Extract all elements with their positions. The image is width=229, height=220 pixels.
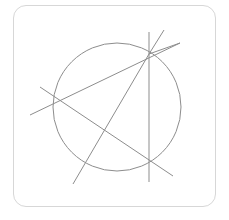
figure-canvas — [0, 0, 229, 220]
line-topright-to-left — [30, 43, 180, 115]
line-left-to-bottomright — [40, 87, 173, 176]
line-upper-right-steep — [149, 30, 164, 54]
line-topright-to-bottomleft — [73, 54, 149, 184]
geometry-drawing — [0, 0, 229, 220]
main-circle — [53, 43, 181, 171]
line-upper-right-shallow — [149, 43, 180, 54]
